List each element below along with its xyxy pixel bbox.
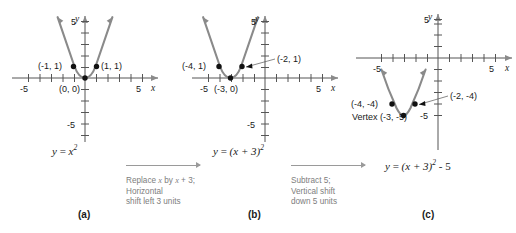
panel-a-graph: (-1, 1) (1, 1) (0, 0) -5 5 5 -5 x y bbox=[0, 0, 170, 150]
leader-arrow-c bbox=[419, 101, 426, 106]
transformation-figure: (-1, 1) (1, 1) (0, 0) -5 5 5 -5 x y y = … bbox=[0, 0, 516, 233]
ytick-label-a-neg5: -5 bbox=[67, 120, 75, 130]
point-label-c-1: (-2, -4) bbox=[450, 91, 477, 101]
point-label-a-1: (1, 1) bbox=[101, 61, 122, 71]
panel-c: (-4, -4) (-2, -4) Vertex (-3, -5) -5 5 5… bbox=[342, 0, 516, 233]
ytick-label-c-neg5: -5 bbox=[420, 111, 428, 121]
point-label-b-0: (-4, 1) bbox=[182, 61, 206, 71]
xtick-label-c-neg5: -5 bbox=[373, 64, 381, 74]
equation-c-eq: = bbox=[393, 160, 399, 172]
xtick-label-b-neg5: -5 bbox=[200, 84, 208, 94]
xtick-label-c-pos5: 5 bbox=[489, 64, 494, 74]
point-label-b-1: (-2, 1) bbox=[277, 54, 301, 64]
panel-b-graph: (-4, 1) (-2, 1) (-3, 0) -5 5 5 -5 x y bbox=[170, 0, 342, 150]
panel-letter-a: (a) bbox=[78, 209, 90, 220]
equation-c: y = (x + 3)2 - 5 bbox=[385, 158, 451, 172]
equation-b-base: (x + 3) bbox=[230, 145, 261, 157]
equation-c-lhs: y bbox=[385, 160, 390, 172]
panel-letter-b: (b) bbox=[248, 209, 261, 220]
y-axis-name-b: y bbox=[254, 14, 260, 24]
axes-c bbox=[356, 14, 512, 150]
y-axis-name-c: y bbox=[427, 12, 433, 22]
equation-b-lhs: y bbox=[213, 145, 218, 157]
x-axis-name-c: x bbox=[504, 63, 510, 73]
point-label-c-2: Vertex (-3, -5) bbox=[352, 112, 407, 122]
point-label-b-2: (-3, 0) bbox=[214, 84, 238, 94]
leader-arrow-b bbox=[246, 64, 253, 69]
xtick-label-a-neg5: -5 bbox=[20, 84, 28, 94]
x-axis-name-a: x bbox=[150, 83, 156, 93]
equation-b-exp: 2 bbox=[260, 143, 264, 152]
equation-a-exp: 2 bbox=[74, 143, 78, 152]
panel-letter-c: (c) bbox=[422, 209, 434, 220]
y-axis-name-a: y bbox=[74, 14, 80, 24]
equation-a-eq: = bbox=[60, 145, 66, 157]
curve-b bbox=[203, 17, 258, 78]
equation-b: y = (x + 3)2 bbox=[213, 143, 264, 157]
ytick-label-b-neg5: -5 bbox=[247, 120, 255, 130]
equation-c-tail: - 5 bbox=[439, 160, 451, 172]
point-label-a-0: (-1, 1) bbox=[38, 61, 62, 71]
curve-c bbox=[381, 70, 425, 116]
point-label-c-0: (-4, -4) bbox=[351, 99, 378, 109]
equation-c-base: (x + 3) bbox=[402, 160, 433, 172]
equation-a-lhs: y bbox=[52, 145, 57, 157]
annotation-1-pre: Replace bbox=[126, 176, 158, 185]
x-axis-name-b: x bbox=[330, 83, 336, 93]
equation-a: y = x2 bbox=[52, 143, 77, 157]
panel-c-graph: (-4, -4) (-2, -4) Vertex (-3, -5) -5 5 5… bbox=[342, 0, 516, 160]
xtick-label-b-pos5: 5 bbox=[316, 84, 321, 94]
axes-b bbox=[192, 16, 338, 142]
xtick-label-a-pos5: 5 bbox=[136, 84, 141, 94]
point-label-a-2: (0, 0) bbox=[59, 84, 80, 94]
equation-b-eq: = bbox=[221, 145, 227, 157]
